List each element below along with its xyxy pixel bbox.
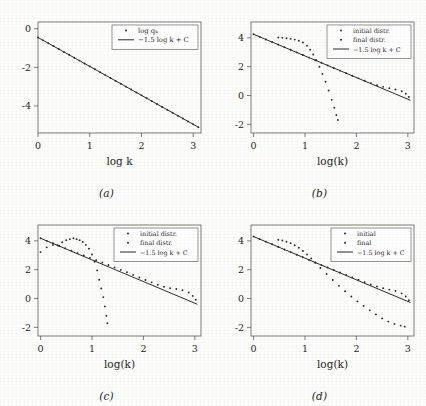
data-point [400, 325, 402, 327]
data-point [107, 264, 109, 266]
data-point [114, 266, 116, 268]
data-point [157, 284, 159, 286]
y-tick-label: 2 [238, 264, 244, 275]
legend-dot-swatch [344, 233, 346, 235]
data-point [395, 89, 397, 91]
data-point [88, 248, 90, 250]
y-tick-label: -2 [22, 322, 31, 333]
data-point [369, 309, 371, 311]
y-tick-label: 0 [25, 23, 31, 34]
y-tick-label: -2 [235, 322, 244, 333]
data-point [306, 254, 308, 256]
data-point [286, 241, 288, 243]
data-point [404, 326, 406, 328]
data-point [46, 246, 48, 248]
data-point [401, 292, 403, 294]
legend-dot-swatch [127, 233, 129, 235]
figure-panel-grid: 01230-2-4log qₖ−1.5 log k + Clog k (a) 0… [0, 0, 426, 406]
legend-dot-swatch [344, 242, 346, 244]
legend-dot-swatch [125, 30, 127, 32]
x-tick-label: 1 [89, 343, 95, 354]
plot-c: 0123420-2initial distr.final distr.−1.5 … [0, 203, 213, 406]
x-tick-label: 0 [38, 343, 44, 354]
data-point [363, 305, 365, 307]
data-point [370, 283, 372, 285]
x-axis-label: log(k) [317, 155, 348, 167]
x-tick-label: 3 [405, 343, 411, 354]
y-tick-label: 4 [238, 32, 244, 43]
data-point [319, 267, 321, 269]
data-point [290, 38, 292, 40]
data-point [145, 279, 147, 281]
data-point [312, 53, 314, 55]
data-point [387, 321, 389, 323]
data-point [325, 81, 327, 83]
y-tick-label: 2 [25, 264, 31, 275]
panel-d: 0123420-2initialfinal−1.5 log k + Clog(k… [213, 203, 426, 406]
panel-c: 0123420-2initial distr.final distr.−1.5 … [0, 203, 213, 406]
data-point [169, 287, 171, 289]
data-point [188, 292, 190, 294]
data-point [408, 299, 410, 301]
data-point [100, 287, 102, 289]
legend-label: final distr. [140, 239, 173, 247]
x-tick-label: 3 [405, 140, 411, 151]
data-point [96, 269, 98, 271]
y-tick-label: 4 [25, 235, 31, 246]
x-tick-label: 3 [190, 140, 196, 151]
data-point [281, 240, 283, 242]
y-tick-label: 2 [238, 61, 244, 72]
plot-d: 0123420-2initialfinal−1.5 log k + Clog(k… [213, 203, 426, 406]
data-point [381, 317, 383, 319]
data-point [302, 250, 304, 252]
data-point [333, 107, 335, 109]
x-tick-label: 2 [140, 343, 146, 354]
fit-line-−1.5 log k + C [38, 37, 198, 127]
panel-d-caption: (d) [213, 390, 426, 402]
data-point [375, 313, 377, 315]
data-point [306, 45, 308, 47]
y-tick-label: -4 [22, 100, 31, 111]
x-tick-label: 0 [251, 343, 257, 354]
data-point [69, 238, 71, 240]
data-point [98, 279, 100, 281]
x-tick-label: 2 [353, 140, 359, 151]
legend-label: −1.5 log k + C [138, 36, 189, 44]
data-point [395, 290, 397, 292]
data-point [40, 251, 42, 253]
y-tick-label: 0 [238, 293, 244, 304]
data-point [294, 39, 296, 41]
series-dots [40, 237, 109, 324]
data-point [382, 86, 384, 88]
x-axis-label: log(k) [104, 358, 135, 370]
x-axis-label: log(k) [317, 358, 348, 370]
data-point [290, 242, 292, 244]
data-point [401, 90, 403, 92]
data-point [126, 271, 128, 273]
data-point [82, 241, 84, 243]
legend-label: initial [357, 230, 376, 238]
legend-dot-swatch [127, 242, 129, 244]
x-tick-label: 2 [353, 343, 359, 354]
data-point [120, 269, 122, 271]
data-point [104, 306, 106, 308]
data-point [388, 289, 390, 291]
data-point [102, 296, 104, 298]
data-point [332, 279, 334, 281]
data-point [294, 244, 296, 246]
x-tick-label: 2 [138, 140, 144, 151]
data-point [195, 299, 197, 301]
data-point [85, 244, 87, 246]
data-point [322, 73, 324, 75]
data-point [331, 99, 333, 101]
data-point [337, 119, 339, 121]
data-point [192, 295, 194, 297]
legend-dot-swatch [340, 30, 342, 32]
data-point [281, 37, 283, 39]
data-point [338, 285, 340, 287]
legend-label: initial distr. [140, 230, 177, 238]
y-tick-label: -2 [22, 62, 31, 73]
panel-a: 01230-2-4log qₖ−1.5 log k + Clog k (a) [0, 0, 213, 203]
data-point [376, 285, 378, 287]
legend-label: −1.5 log k + C [357, 249, 405, 257]
